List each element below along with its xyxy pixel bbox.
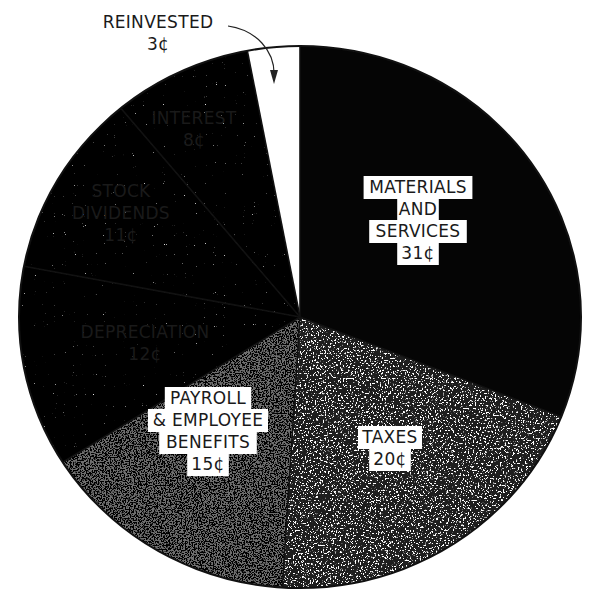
slice-name: DIVIDENDS [72,203,170,223]
slice-value: 3¢ [147,34,169,54]
slice-value: 20¢ [373,449,406,469]
slice-name: TAXES [361,427,417,447]
slice-name: REINVESTED [103,12,214,32]
pie-slices [19,46,581,588]
slice-name: & EMPLOYEE [153,410,264,430]
slice-value: 11¢ [104,225,137,245]
slice-value: 8¢ [183,130,205,150]
slice-name: AND [399,199,437,219]
slice-name: MATERIALS [369,177,467,197]
slice-value: 15¢ [191,454,224,474]
slice-name: DEPRECIATION [81,322,210,342]
pie-chart: MATERIALSANDSERVICES31¢TAXES20¢PAYROLL& … [0,0,596,595]
label-reinvested: REINVESTED3¢ [103,12,214,54]
slice-value: 31¢ [401,243,434,263]
slice-name: BENEFITS [166,432,250,452]
slice-name: PAYROLL [170,388,246,408]
slice-name: SERVICES [376,221,461,241]
slice-name: STOCK [91,181,151,201]
slice-value: 12¢ [128,344,161,364]
slice-name: INTEREST [152,108,237,128]
